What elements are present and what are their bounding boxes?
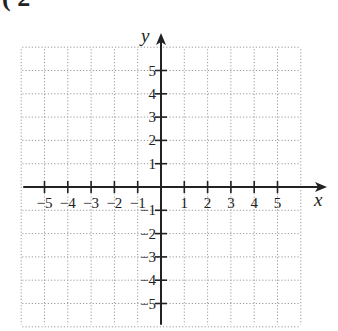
- y-tick-label: 1: [149, 156, 157, 172]
- y-tick-label: 2: [149, 132, 157, 148]
- y-tick-label: −4: [140, 272, 156, 288]
- header-partial-text: ( 2: [2, 0, 30, 12]
- x-tick-label: −5: [37, 195, 53, 211]
- y-tick-label: 5: [149, 63, 157, 79]
- x-tick-label: 1: [181, 195, 189, 211]
- x-axis-label: x: [313, 189, 323, 210]
- axes: [23, 33, 327, 325]
- y-tick-label: 4: [149, 86, 157, 102]
- x-tick-label: −4: [60, 195, 76, 211]
- x-tick-label: 5: [274, 195, 282, 211]
- x-tick-label: 3: [227, 195, 235, 211]
- x-tick-label: −3: [83, 195, 99, 211]
- x-tick-label: 2: [204, 195, 212, 211]
- coordinate-plane: ( 2 −5−4−3−2−11234554321−1−2−3−4−5 x y: [0, 0, 338, 331]
- y-tick-label: −1: [140, 202, 156, 218]
- y-tick-label: 3: [149, 109, 157, 125]
- x-tick-label: 4: [250, 195, 258, 211]
- y-tick-label: −2: [140, 226, 156, 242]
- y-tick-label: −3: [140, 249, 156, 265]
- y-tick-label: −5: [140, 296, 156, 312]
- x-tick-label: −2: [106, 195, 122, 211]
- y-axis-label: y: [139, 25, 150, 46]
